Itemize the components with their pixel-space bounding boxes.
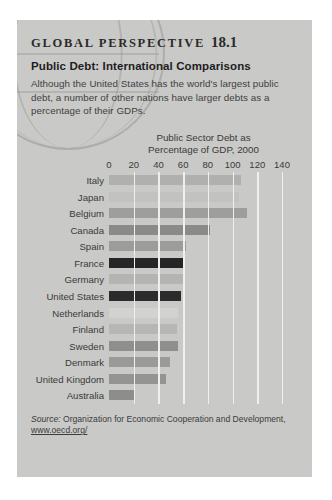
chart-source-note: Source: Organization for Economic Cooper… [31, 414, 298, 437]
bar-netherlands [109, 308, 178, 318]
gridline-20 [134, 172, 135, 404]
chart-bars-area: ItalyJapanBelgiumCanadaSpainFranceGerman… [109, 172, 298, 404]
bar-label-australia: Australia [67, 390, 104, 401]
bar-spain [109, 241, 186, 251]
chart-row: Finland [109, 321, 298, 338]
bar-label-france: France [74, 257, 104, 268]
gridline-40 [158, 172, 159, 404]
bar-label-germany: Germany [65, 274, 104, 285]
global-perspective-panel: GLOBAL PERSPECTIVE18.1 Public Debt: Inte… [17, 20, 312, 477]
chart-row: United States [109, 288, 298, 305]
x-axis-tick-40: 40 [153, 159, 164, 170]
bar-japan [109, 192, 239, 202]
chart-rows: ItalyJapanBelgiumCanadaSpainFranceGerman… [109, 172, 298, 404]
bar-sweden [109, 341, 178, 351]
bar-label-spain: Spain [79, 241, 104, 252]
gridline-120 [257, 172, 258, 404]
panel-kicker: GLOBAL PERSPECTIVE18.1 [31, 34, 298, 51]
bar-label-united-states: United States [46, 291, 104, 302]
chart-plot-area: 020406080100120140 ItalyJapanBelgiumCana… [31, 159, 298, 404]
chart-row: Spain [109, 238, 298, 255]
bar-label-sweden: Sweden [69, 340, 104, 351]
chart-row: Japan [109, 188, 298, 205]
kicker-number: 18.1 [211, 34, 237, 50]
panel-headline: Public Debt: International Comparisons [31, 60, 298, 72]
chart-title: Public Sector Debt as Percentage of GDP,… [109, 132, 298, 156]
bar-label-italy: Italy [86, 175, 104, 186]
chart-row: Canada [109, 221, 298, 238]
chart-row: Belgium [109, 205, 298, 222]
source-text: Organization for Economic Cooperation an… [63, 414, 286, 424]
gridline-140 [282, 172, 283, 404]
bar-label-denmark: Denmark [65, 357, 104, 368]
bar-australia [109, 390, 135, 400]
x-axis-tick-60: 60 [178, 159, 189, 170]
bar-label-belgium: Belgium [69, 208, 104, 219]
chart-row: Denmark [109, 354, 298, 371]
bar-label-netherlands: Netherlands [52, 307, 104, 318]
chart-row: Italy [109, 172, 298, 189]
bar-label-canada: Canada [70, 224, 104, 235]
bar-belgium [109, 208, 247, 218]
kicker-label: GLOBAL PERSPECTIVE [31, 36, 205, 50]
gridline-80 [208, 172, 209, 404]
bar-label-united-kingdom: United Kingdom [36, 373, 104, 384]
bar-france [109, 258, 183, 268]
x-axis-tick-80: 80 [203, 159, 214, 170]
x-axis-tick-140: 140 [274, 159, 290, 170]
chart-row: Sweden [109, 337, 298, 354]
x-axis-tick-0: 0 [106, 159, 111, 170]
chart-row: Germany [109, 271, 298, 288]
x-axis-tick-20: 20 [128, 159, 139, 170]
bar-germany [109, 274, 183, 284]
chart-row: Netherlands [109, 304, 298, 321]
panel-deck-text: Although the United States has the world… [31, 77, 298, 118]
source-label: Source: [31, 414, 61, 424]
bar-denmark [109, 357, 170, 367]
x-axis-tick-100: 100 [225, 159, 241, 170]
bar-label-finland: Finland [73, 324, 104, 335]
bar-chart: Public Sector Debt as Percentage of GDP,… [31, 132, 298, 404]
bar-italy [109, 175, 241, 185]
x-axis-tick-labels: 020406080100120140 [109, 159, 298, 172]
bar-united-kingdom [109, 374, 166, 384]
bar-label-japan: Japan [78, 191, 104, 202]
chart-row: Australia [109, 387, 298, 404]
chart-row: France [109, 255, 298, 272]
x-axis-tick-120: 120 [249, 159, 265, 170]
bar-united-states [109, 291, 181, 301]
chart-row: United Kingdom [109, 371, 298, 388]
source-url-link[interactable]: www.oecd.org/ [31, 425, 87, 435]
gridline-100 [233, 172, 234, 404]
gridline-60 [183, 172, 184, 404]
bar-finland [109, 324, 177, 334]
